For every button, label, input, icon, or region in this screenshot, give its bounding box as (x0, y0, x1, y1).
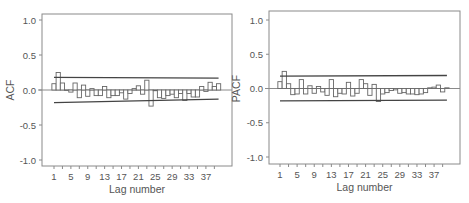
bar (312, 89, 316, 94)
bar (162, 90, 166, 98)
y-tick-label: 0.0 (250, 83, 263, 94)
x-tick-label: 13 (326, 169, 337, 180)
bar (200, 87, 204, 91)
bar (145, 80, 149, 90)
y-tick-label: -0.5 (247, 117, 263, 128)
bar (94, 90, 98, 96)
bar (372, 84, 376, 88)
x-axis-label: Lag number (109, 183, 166, 195)
bar (157, 90, 161, 98)
lower-confidence-line (280, 100, 447, 101)
bar (124, 90, 128, 99)
bar (216, 84, 220, 90)
bar (191, 90, 195, 97)
bar (419, 89, 423, 94)
x-tick-label: 37 (201, 171, 212, 182)
x-tick-label: 33 (184, 171, 195, 182)
bar (368, 89, 372, 96)
bar (103, 87, 107, 91)
bar (170, 90, 174, 94)
bar (295, 89, 299, 94)
bar (411, 89, 415, 94)
bar (119, 90, 123, 93)
bar (304, 89, 308, 94)
x-tick-label: 21 (133, 171, 144, 182)
y-tick-label: -1.0 (247, 152, 263, 163)
bar (73, 83, 77, 90)
y-tick-label: 0.5 (250, 49, 263, 60)
bar (402, 89, 406, 93)
upper-confidence-line (280, 75, 447, 76)
bar (132, 89, 136, 90)
bar (56, 73, 60, 91)
bar (334, 89, 338, 97)
x-tick-label: 25 (377, 169, 388, 180)
bar (65, 90, 69, 91)
acf-chart: 1.00.50.0-0.5-1.015913172125293337Lag nu… (4, 14, 232, 195)
bar (86, 90, 90, 96)
bar (81, 85, 85, 90)
pacf-chart: 1.00.50.0-0.5-1.015913172125293337Lag nu… (230, 11, 460, 193)
x-tick-label: 29 (167, 171, 178, 182)
bar (363, 84, 367, 89)
bar (325, 89, 329, 96)
bar (187, 90, 191, 94)
x-tick-label: 29 (395, 169, 406, 180)
bar (128, 90, 132, 94)
bar (398, 89, 402, 94)
x-tick-label: 1 (51, 171, 56, 182)
bar (346, 82, 350, 88)
x-tick-label: 9 (85, 171, 90, 182)
y-tick-label: 1.0 (250, 15, 263, 26)
bar (141, 90, 145, 94)
bar (111, 90, 115, 96)
bar (376, 89, 380, 102)
bar (69, 90, 73, 92)
bar (204, 90, 208, 91)
bar (98, 90, 102, 96)
bar (90, 89, 94, 90)
x-tick-label: 9 (312, 169, 317, 180)
x-tick-label: 37 (429, 169, 440, 180)
bar (428, 88, 432, 89)
bar (212, 87, 216, 91)
bar (329, 80, 333, 89)
bar (381, 89, 385, 94)
x-tick-label: 21 (360, 169, 371, 180)
bar (436, 85, 440, 88)
bar (174, 90, 178, 98)
bar (178, 90, 182, 94)
bar (316, 86, 320, 88)
x-tick-label: 1 (277, 169, 282, 180)
y-tick-label: 1.0 (23, 15, 36, 26)
bar (149, 90, 153, 106)
y-tick-label: 0.0 (23, 85, 36, 96)
x-tick-label: 17 (343, 169, 354, 180)
bar (385, 89, 389, 93)
bar (406, 89, 410, 94)
bar (77, 90, 81, 98)
bar (389, 89, 393, 91)
bar (441, 89, 445, 92)
upper-confidence-line (54, 77, 219, 78)
y-tick-label: -0.5 (20, 120, 36, 131)
bar (52, 84, 56, 90)
bar (299, 80, 303, 89)
bar (308, 86, 312, 89)
bar (351, 89, 355, 97)
bar (208, 82, 212, 90)
acf-pacf-charts: 1.00.50.0-0.5-1.015913172125293337Lag nu… (0, 0, 469, 203)
bar (278, 82, 282, 89)
x-tick-label: 17 (116, 171, 127, 182)
bar (415, 89, 419, 95)
y-axis-label: ACF (4, 80, 16, 101)
bar (166, 90, 170, 96)
y-axis-label: PACF (230, 75, 242, 102)
bar (423, 89, 427, 93)
x-tick-label: 5 (294, 169, 299, 180)
y-tick-label: -1.0 (20, 155, 36, 166)
bar (321, 89, 325, 92)
bar (359, 80, 363, 89)
bar (183, 90, 187, 101)
y-tick-label: 0.5 (23, 50, 36, 61)
